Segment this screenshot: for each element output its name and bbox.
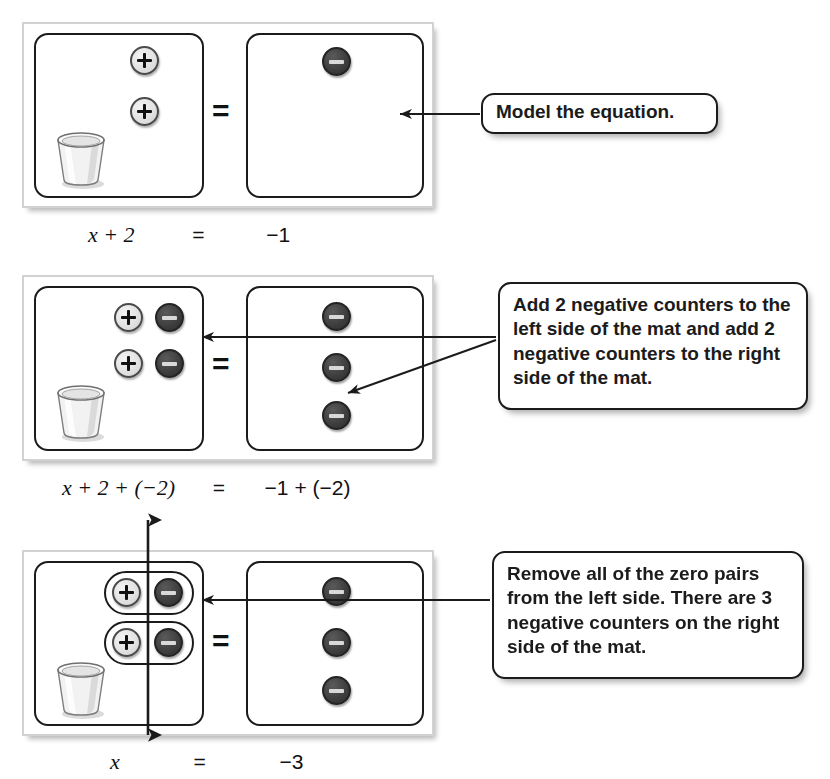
step-3-equation-relation: = bbox=[193, 750, 205, 773]
plus-counter-icon[interactable] bbox=[112, 628, 141, 657]
step-2: = x + 2 + (−2) = −1 + (−2) bbox=[0, 262, 830, 520]
cup-icon[interactable] bbox=[50, 661, 112, 721]
step-2-callout[interactable]: Add 2 negative counters to the left side… bbox=[498, 282, 808, 410]
minus-bar bbox=[329, 366, 344, 370]
plus-counter-icon[interactable] bbox=[114, 303, 143, 332]
step-2-equation-relation: = bbox=[213, 476, 225, 499]
step-1-equation-relation: = bbox=[192, 223, 204, 246]
step-2-callout-text: Add 2 negative counters to the left side… bbox=[513, 294, 791, 388]
step-2-equation-right: −1 + (−2) bbox=[265, 476, 351, 499]
step-3: = x = −3 Remove all o bbox=[0, 520, 830, 779]
minus-counter-icon[interactable] bbox=[322, 47, 351, 76]
step-2-right-panel[interactable] bbox=[246, 286, 424, 451]
step-3-left-panel[interactable] bbox=[34, 561, 204, 726]
step-1-callout-text: Model the equation. bbox=[496, 100, 674, 124]
minus-bar bbox=[162, 362, 177, 366]
minus-bar bbox=[162, 316, 177, 320]
step-2-equation-left: x + 2 + (−2) bbox=[62, 475, 175, 500]
minus-counter-icon[interactable] bbox=[322, 353, 351, 382]
plus-counter-icon[interactable] bbox=[130, 46, 159, 75]
step-3-equals-sign: = bbox=[212, 626, 230, 656]
minus-counter-icon[interactable] bbox=[322, 628, 351, 657]
minus-bar bbox=[329, 414, 344, 418]
minus-bar bbox=[329, 590, 344, 594]
step-3-callout[interactable]: Remove all of the zero pairs from the le… bbox=[492, 551, 804, 679]
step-3-equation-right: −3 bbox=[279, 750, 303, 773]
minus-bar bbox=[329, 60, 344, 64]
minus-bar bbox=[329, 689, 344, 693]
minus-counter-icon[interactable] bbox=[322, 676, 351, 705]
step-3-mat-frame: = bbox=[22, 550, 434, 736]
minus-counter-icon[interactable] bbox=[322, 401, 351, 430]
step-2-equals-sign: = bbox=[212, 349, 230, 379]
cup-icon[interactable] bbox=[50, 131, 112, 191]
step-2-left-panel[interactable] bbox=[34, 286, 204, 451]
step-3-callout-text: Remove all of the zero pairs from the le… bbox=[507, 563, 779, 657]
step-1-equation-right: −1 bbox=[266, 223, 290, 246]
plus-counter-icon[interactable] bbox=[114, 349, 143, 378]
minus-counter-icon[interactable] bbox=[322, 577, 351, 606]
plus-bar-vertical bbox=[127, 310, 130, 326]
minus-counter-icon[interactable] bbox=[154, 628, 183, 657]
minus-counter-icon[interactable] bbox=[155, 303, 184, 332]
step-1-equals-sign: = bbox=[212, 96, 230, 126]
plus-bar-vertical bbox=[125, 585, 128, 601]
step-3-equation: x = −3 bbox=[110, 749, 303, 775]
cup-icon[interactable] bbox=[50, 384, 112, 444]
plus-counter-icon[interactable] bbox=[112, 578, 141, 607]
step-1: = x + 2 = −1 Model the equation. bbox=[0, 0, 830, 262]
minus-counter-icon[interactable] bbox=[155, 349, 184, 378]
step-1-callout[interactable]: Model the equation. bbox=[481, 93, 718, 134]
plus-bar-vertical bbox=[125, 635, 128, 651]
minus-counter-icon[interactable] bbox=[322, 302, 351, 331]
minus-bar bbox=[161, 641, 176, 645]
plus-bar-vertical bbox=[143, 53, 146, 69]
step-3-equation-left: x bbox=[110, 749, 120, 774]
step-3-right-panel[interactable] bbox=[246, 561, 424, 726]
step-2-mat-frame: = bbox=[22, 275, 434, 461]
diagram-stage: = x + 2 = −1 Model the equation. bbox=[0, 0, 830, 779]
plus-counter-icon[interactable] bbox=[130, 97, 159, 126]
minus-bar bbox=[161, 591, 176, 595]
minus-bar bbox=[329, 315, 344, 319]
plus-bar-vertical bbox=[143, 104, 146, 120]
step-1-right-panel[interactable] bbox=[246, 33, 424, 198]
step-1-mat-frame: = bbox=[22, 22, 434, 208]
step-1-left-panel[interactable] bbox=[34, 33, 204, 198]
step-1-equation: x + 2 = −1 bbox=[88, 222, 290, 248]
step-2-equation: x + 2 + (−2) = −1 + (−2) bbox=[62, 475, 350, 501]
minus-counter-icon[interactable] bbox=[154, 578, 183, 607]
minus-bar bbox=[329, 641, 344, 645]
plus-bar-vertical bbox=[127, 356, 130, 372]
step-1-equation-left: x + 2 bbox=[88, 222, 135, 247]
